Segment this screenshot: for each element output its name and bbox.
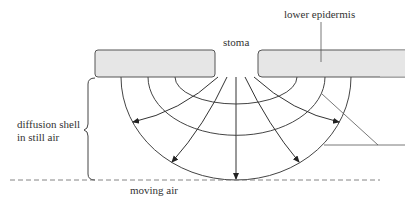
diffusion-shell-label-line1: diffusion shell [17,118,80,131]
flow-arrow-left-1 [133,77,218,122]
flow-arrow-left-2 [172,77,227,162]
flow-arrow-right-1 [245,77,299,162]
stoma-diffusion-diagram [0,0,405,201]
epidermis-left [95,50,215,77]
diffusion-shell-label-line2: in still air [17,131,59,144]
stoma-label: stoma [223,36,249,49]
lower-epidermis-label: lower epidermis [284,8,355,21]
diffusion-shell-brace [84,78,95,180]
flow-arrow-right-2 [254,77,339,122]
moving-air-label: moving air [130,184,178,197]
